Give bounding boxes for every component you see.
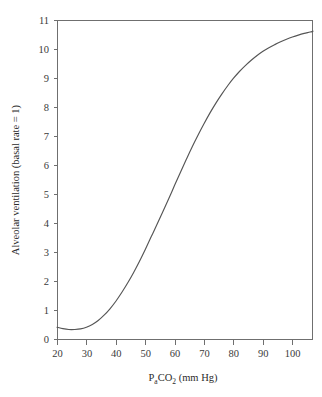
- x-tick-labels: 20 30 40 50 60 70 80 90 100: [52, 348, 300, 359]
- x-axis-title-units: (mm Hg): [176, 372, 218, 384]
- x-tick-label: 50: [140, 348, 151, 359]
- y-tick-label: 9: [44, 73, 49, 84]
- y-tick-label: 10: [39, 44, 50, 55]
- chart-figure: 0 1 2 3 4 5 6 7 8 9 10 11 20: [0, 0, 322, 397]
- x-tick-group: [58, 340, 293, 345]
- y-tick-labels: 0 1 2 3 4 5 6 7 8 9 10 11: [39, 15, 50, 345]
- x-tick-label: 90: [258, 348, 269, 359]
- x-axis-title-co: CO: [158, 372, 173, 383]
- plot-frame-top-right: [58, 21, 313, 340]
- y-tick-label: 5: [44, 189, 49, 200]
- x-tick-label: 80: [229, 348, 240, 359]
- y-tick-label: 8: [44, 102, 49, 113]
- y-tick-label: 0: [44, 334, 49, 345]
- x-tick-label: 40: [111, 348, 122, 359]
- y-tick-label: 1: [44, 305, 49, 316]
- y-tick-label: 6: [44, 160, 49, 171]
- x-axis-title: PaCO2 (mm Hg): [149, 372, 218, 386]
- y-tick-label: 11: [39, 15, 49, 26]
- x-tick-label: 70: [199, 348, 210, 359]
- y-tick-label: 3: [44, 247, 49, 258]
- x-tick-label: 60: [170, 348, 181, 359]
- y-tick-label: 7: [44, 131, 49, 142]
- x-tick-label: 30: [82, 348, 93, 359]
- y-tick-label: 2: [44, 276, 49, 287]
- x-tick-label: 100: [285, 348, 301, 359]
- data-curve: [57, 31, 313, 329]
- x-tick-label: 20: [52, 348, 63, 359]
- y-tick-group: [54, 21, 58, 340]
- y-tick-label: 4: [44, 218, 50, 229]
- chart-svg: 0 1 2 3 4 5 6 7 8 9 10 11 20: [0, 0, 322, 397]
- y-axis-title: Alveolar ventilation (basal rate = 1): [10, 104, 22, 255]
